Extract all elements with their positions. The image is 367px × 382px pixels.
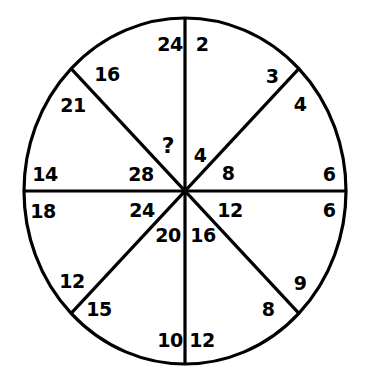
outer-number-0: 2 — [196, 35, 209, 54]
wheel-diagram — [0, 0, 367, 382]
inner-number-7: 28 — [128, 165, 153, 184]
outer-number-3: 6 — [323, 165, 336, 184]
outer-number-9: 15 — [86, 300, 111, 319]
inner-number-1: 4 — [194, 146, 207, 165]
outer-number-13: 21 — [60, 96, 85, 115]
outer-number-7: 12 — [189, 331, 214, 350]
outer-number-8: 10 — [157, 331, 182, 350]
outer-number-12: 14 — [32, 165, 57, 184]
outer-number-5: 9 — [294, 274, 307, 293]
outer-number-10: 12 — [59, 272, 84, 291]
inner-number-3: 12 — [217, 201, 242, 220]
outer-number-6: 8 — [262, 300, 275, 319]
outer-number-2: 4 — [294, 95, 307, 114]
inner-number-5: 20 — [155, 226, 180, 245]
outer-number-1: 3 — [266, 67, 279, 86]
inner-number-2: 8 — [222, 164, 235, 183]
missing-value-marker: ? — [162, 135, 174, 157]
number-wheel-puzzle: ?481216202428 2346698121015121814211624 — [0, 0, 367, 382]
outer-number-11: 18 — [30, 202, 55, 221]
outer-number-14: 16 — [94, 65, 119, 84]
inner-number-6: 24 — [129, 201, 154, 220]
inner-number-4: 16 — [190, 226, 215, 245]
outer-number-15: 24 — [157, 35, 182, 54]
outer-number-4: 6 — [323, 201, 336, 220]
